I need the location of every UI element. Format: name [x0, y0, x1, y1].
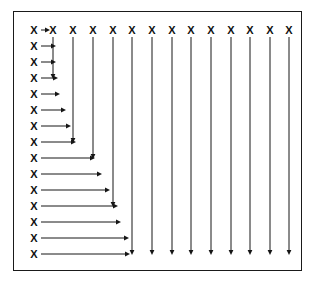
horizontal-arrow — [41, 92, 60, 97]
top-row-node-mark: X — [49, 24, 57, 36]
left-column-node-mark: X — [30, 168, 38, 180]
figure-root: XXXXXXXXXXXXXX XXXXXXXXXXXXXX — [0, 0, 316, 283]
top-row-node-mark: X — [128, 24, 136, 36]
left-column-node-mark: X — [30, 40, 38, 52]
horizontal-arrow — [41, 188, 110, 193]
top-row-node-mark: X — [69, 24, 77, 36]
horizontal-arrow — [41, 204, 118, 209]
left-column-node-mark: X — [30, 136, 38, 148]
vertical-arrow — [209, 37, 214, 255]
left-column-node-mark: X — [30, 88, 38, 100]
left-column-node-mark: X — [30, 216, 38, 228]
diagram-canvas: XXXXXXXXXXXXXX XXXXXXXXXXXXXX — [0, 0, 316, 283]
horizontal-arrow — [41, 76, 58, 81]
top-row-node-mark: X — [187, 24, 195, 36]
top-row-node-mark: X — [30, 24, 38, 36]
left-column-node-mark: X — [30, 200, 38, 212]
vertical-arrow — [189, 37, 194, 255]
left-column-node-mark: X — [30, 104, 38, 116]
vertical-arrow — [111, 37, 116, 207]
vertical-arrow — [268, 37, 273, 255]
horizontal-arrow — [41, 108, 66, 113]
vertical-arrow — [51, 37, 56, 79]
left-column-node-mark: X — [30, 56, 38, 68]
top-row-node-mark: X — [227, 24, 235, 36]
horizontal-arrow-layer — [41, 28, 130, 257]
vertical-arrow — [130, 37, 135, 255]
vertical-arrow — [170, 37, 175, 255]
top-row-node-mark: X — [266, 24, 274, 36]
vertical-arrow — [229, 37, 234, 255]
left-column-node-mark: X — [30, 232, 38, 244]
top-row-node-mark: X — [285, 24, 293, 36]
vertical-arrow — [91, 37, 96, 159]
left-column-node-mark: X — [30, 152, 38, 164]
vertical-arrow — [150, 37, 155, 255]
left-column-node-mark: X — [30, 120, 38, 132]
horizontal-arrow — [41, 156, 95, 161]
horizontal-arrow — [41, 252, 130, 257]
top-row-node-mark: X — [148, 24, 156, 36]
left-column-node-mark: X — [30, 184, 38, 196]
vertical-arrow — [71, 37, 76, 143]
vertical-arrow — [248, 37, 253, 255]
horizontal-arrow — [41, 220, 121, 225]
horizontal-arrow — [41, 44, 56, 49]
top-row-node-mark: X — [168, 24, 176, 36]
left-column-node-mark: X — [30, 72, 38, 84]
top-row-node-mark: X — [207, 24, 215, 36]
horizontal-arrow — [41, 140, 76, 145]
horizontal-arrow — [41, 172, 102, 177]
left-column-node-mark: X — [30, 248, 38, 260]
vertical-arrow — [287, 37, 292, 255]
top-row-node-layer: XXXXXXXXXXXXXX — [30, 24, 293, 36]
top-row-node-mark: X — [109, 24, 117, 36]
top-row-node-mark: X — [89, 24, 97, 36]
horizontal-arrow — [41, 236, 129, 241]
left-column-node-layer: XXXXXXXXXXXXXX — [30, 40, 38, 260]
top-row-node-mark: X — [246, 24, 254, 36]
horizontal-arrow — [41, 60, 56, 65]
horizontal-arrow — [41, 124, 71, 129]
